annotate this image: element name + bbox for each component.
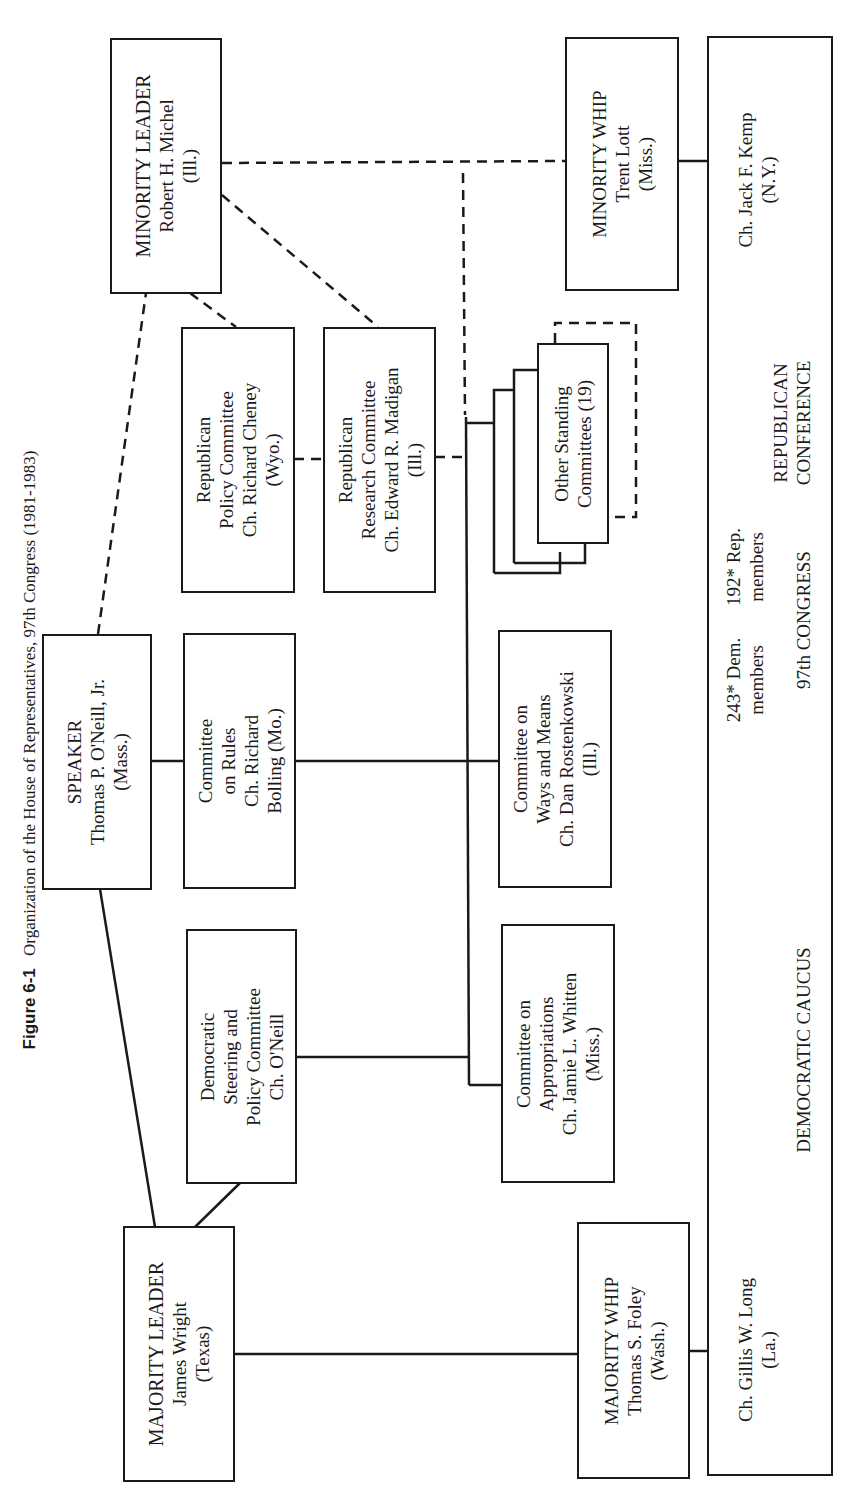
- majority-leader-box: MAJORITY LEADER James Wright (Texas): [123, 1226, 235, 1482]
- box-line: Policy Committee: [215, 383, 238, 538]
- box-line: Appropriations: [535, 972, 558, 1135]
- figure-title: Organization of the House of Representat…: [20, 451, 39, 956]
- republican-conference-label: REPUBLICAN CONFERENCE: [769, 361, 815, 486]
- box-line: (Wyo.): [261, 383, 284, 538]
- congress-box: [707, 36, 833, 1476]
- minority-leader-to-research-dashed: [222, 195, 378, 327]
- box-line: Ch. Dan Rostenkowski: [555, 671, 578, 847]
- minority-whip-box: MINORITY WHIP Trent Lott (Miss.): [565, 37, 679, 291]
- box-line: (Ill.): [403, 367, 426, 552]
- box-line: Ch. Richard: [240, 708, 263, 814]
- box-title: MINORITY LEADER: [132, 74, 155, 257]
- minority-to-committees-dashed: [463, 173, 465, 415]
- other-standing-committees-box: Other Standing Committees (19): [537, 343, 609, 544]
- minority-leader-to-policy-dashed: [190, 293, 236, 327]
- box-line: Research Committee: [357, 367, 380, 552]
- majority-leader-to-steering-line: [195, 1183, 240, 1227]
- box-line: Republican: [334, 367, 357, 552]
- box-state: (Miss.): [634, 90, 657, 237]
- box-line: Policy Committee: [242, 988, 265, 1126]
- box-state: (Ill.): [178, 74, 201, 257]
- box-title: MAJORITY WHIP: [599, 1276, 622, 1424]
- committee-trunk-line: [466, 417, 469, 1085]
- stacked-committee-mid-outline: [514, 370, 537, 563]
- box-line: Committee on: [512, 972, 535, 1135]
- congress-label: 97th CONGRESS: [792, 551, 815, 689]
- box-line: Ch. Richard Cheney: [238, 383, 261, 538]
- box-line: 243* Dem.: [722, 638, 745, 722]
- ways-and-means-committee-box: Committee on Ways and Means Ch. Dan Rost…: [498, 630, 612, 888]
- box-line: (Ill.): [578, 671, 601, 847]
- minority-leader-to-whip-dashed: [222, 161, 565, 163]
- box-line: Steering and: [219, 988, 242, 1126]
- box-title: MAJORITY LEADER: [145, 1262, 168, 1446]
- box-line: Committees (19): [573, 379, 596, 507]
- republican-member-count: 192* Rep. members: [722, 528, 768, 606]
- stacked-committee-back-outline: [494, 390, 514, 573]
- box-line: Committee on: [509, 671, 532, 847]
- box-line: Democratic: [196, 988, 219, 1126]
- box-title: MINORITY WHIP: [588, 90, 611, 237]
- box-line: REPUBLICAN: [769, 361, 792, 486]
- box-name: Trent Lott: [611, 90, 634, 237]
- box-name: Thomas P. O'Neill, Jr.: [86, 679, 109, 845]
- republican-research-committee-box: Republican Research Committee Ch. Edward…: [323, 327, 436, 593]
- democratic-caucus-chair: Ch. Gillis W. Long (La.): [734, 1278, 780, 1422]
- figure-caption: Figure 6-1 Organization of the House of …: [20, 451, 40, 1050]
- box-name: Thomas S. Foley: [622, 1276, 645, 1424]
- box-line: (Miss.): [581, 972, 604, 1135]
- democratic-steering-committee-box: Democratic Steering and Policy Committee…: [186, 929, 297, 1184]
- box-line: Other Standing: [550, 379, 573, 507]
- box-line: (La.): [757, 1278, 780, 1422]
- box-line: Ch. Gillis W. Long: [734, 1278, 757, 1422]
- speaker-to-majority-leader-line: [100, 889, 155, 1227]
- box-state: (Texas): [191, 1262, 214, 1446]
- box-line: CONFERENCE: [792, 361, 815, 486]
- box-line: Ch. O'Neill: [265, 988, 288, 1126]
- box-title: SPEAKER: [63, 679, 86, 845]
- box-line: members: [745, 638, 768, 722]
- box-line: Committee: [194, 708, 217, 814]
- figure-label: Figure 6-1: [20, 968, 39, 1049]
- majority-whip-box: MAJORITY WHIP Thomas S. Foley (Wash.): [577, 1222, 690, 1479]
- box-line: Bolling (Mo.): [263, 708, 286, 814]
- box-name: Robert H. Michel: [155, 74, 178, 257]
- rules-committee-box: Committee on Rules Ch. Richard Bolling (…: [183, 633, 296, 889]
- appropriations-committee-box: Committee on Appropriations Ch. Jamie L.…: [501, 924, 615, 1183]
- box-line: on Rules: [217, 708, 240, 814]
- box-state: (Wash.): [645, 1276, 668, 1424]
- minority-leader-box: MINORITY LEADER Robert H. Michel (Ill.): [110, 38, 222, 294]
- box-line: (N.Y.): [757, 112, 780, 247]
- box-state: (Mass.): [109, 679, 132, 845]
- republican-conference-chair: Ch. Jack F. Kemp (N.Y.): [734, 112, 780, 247]
- box-line: members: [745, 528, 768, 606]
- box-name: James Wright: [168, 1262, 191, 1446]
- box-line: Ways and Means: [532, 671, 555, 847]
- box-line: Republican: [192, 383, 215, 538]
- box-line: Ch. Jack F. Kemp: [734, 112, 757, 247]
- republican-policy-committee-box: Republican Policy Committee Ch. Richard …: [181, 327, 295, 593]
- democratic-member-count: 243* Dem. members: [722, 638, 768, 722]
- box-line: 192* Rep.: [722, 528, 745, 606]
- speaker-box: SPEAKER Thomas P. O'Neill, Jr. (Mass.): [42, 634, 152, 890]
- box-line: Ch. Edward R. Madigan: [380, 367, 403, 552]
- democratic-caucus-label: DEMOCRATIC CAUCUS: [792, 947, 815, 1152]
- box-line: Ch. Jamie L. Whitten: [558, 972, 581, 1135]
- speaker-to-minority-leader-dashed: [98, 293, 146, 634]
